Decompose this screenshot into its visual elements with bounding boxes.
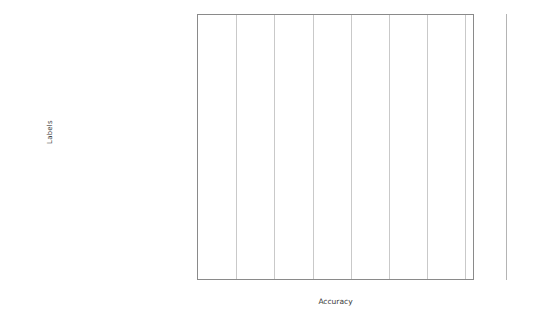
accuracy-bar-chart: Labels Accuracy bbox=[0, 0, 534, 316]
bars-layer bbox=[198, 15, 473, 279]
plot-area bbox=[197, 14, 474, 280]
outer-gridline-102 bbox=[506, 14, 507, 280]
y-tick-labels bbox=[0, 14, 193, 280]
x-axis-title: Accuracy bbox=[197, 297, 474, 306]
